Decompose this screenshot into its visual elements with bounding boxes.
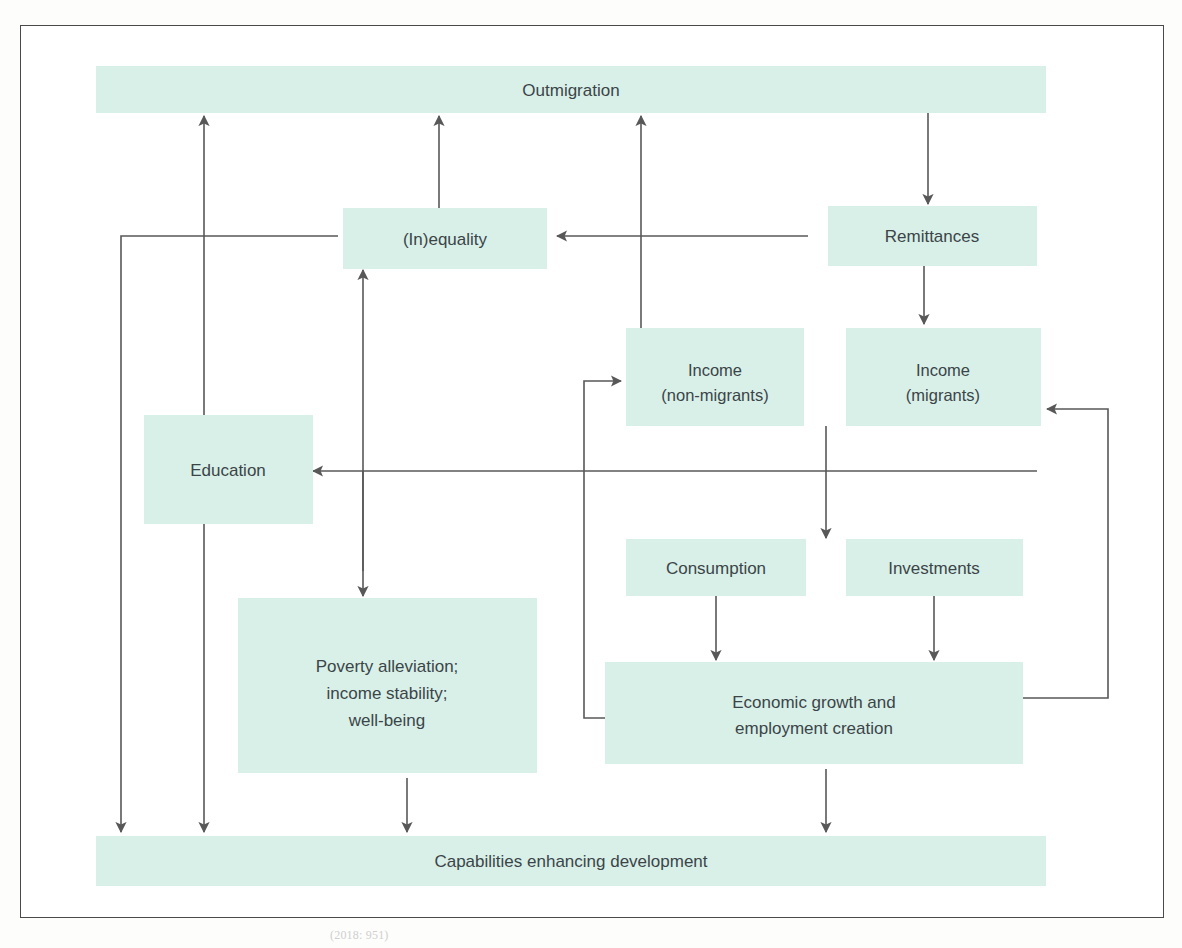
node-education: Education <box>144 415 313 524</box>
node-income-non-migrants-label-line1: Income <box>688 361 742 379</box>
node-economic-growth-label-line1: Economic growth and <box>732 693 895 712</box>
node-poverty-label-line3: well-being <box>348 711 426 730</box>
node-income-migrants-label-line1: Income <box>916 361 970 379</box>
node-education-label: Education <box>190 461 266 480</box>
node-outmigration: Outmigration <box>96 66 1046 113</box>
node-consumption-label: Consumption <box>666 559 766 578</box>
figure-caption: (2018: 951) <box>330 928 389 943</box>
figure-page: Outmigration (In)equality Remittances In… <box>0 0 1182 948</box>
flow-diagram: Outmigration (In)equality Remittances In… <box>21 26 1165 919</box>
node-capabilities-label: Capabilities enhancing development <box>434 852 707 871</box>
node-remittances: Remittances <box>828 206 1037 266</box>
node-income-non-migrants: Income (non-migrants) <box>626 328 804 426</box>
node-investments: Investments <box>846 539 1023 596</box>
node-poverty: Poverty alleviation; income stability; w… <box>238 598 537 773</box>
node-income-non-migrants-label-line2: (non-migrants) <box>661 386 768 404</box>
node-poverty-label-line1: Poverty alleviation; <box>316 657 459 676</box>
nodes-layer: Outmigration (In)equality Remittances In… <box>96 66 1046 886</box>
node-income-migrants: Income (migrants) <box>846 328 1041 426</box>
node-outmigration-label: Outmigration <box>522 81 619 100</box>
node-consumption: Consumption <box>626 539 806 596</box>
node-inequality: (In)equality <box>343 208 547 269</box>
node-capabilities: Capabilities enhancing development <box>96 836 1046 886</box>
node-economic-growth-label-line2: employment creation <box>735 719 893 738</box>
node-poverty-label-line2: income stability; <box>327 684 448 703</box>
figure-frame: Outmigration (In)equality Remittances In… <box>20 25 1164 918</box>
edge-economic-growth-to-income-migrants <box>1023 409 1108 698</box>
node-inequality-label: (In)equality <box>403 230 488 249</box>
node-investments-label: Investments <box>888 559 980 578</box>
node-remittances-label: Remittances <box>885 227 979 246</box>
node-income-migrants-label-line2: (migrants) <box>906 386 980 404</box>
node-economic-growth: Economic growth and employment creation <box>605 662 1023 764</box>
